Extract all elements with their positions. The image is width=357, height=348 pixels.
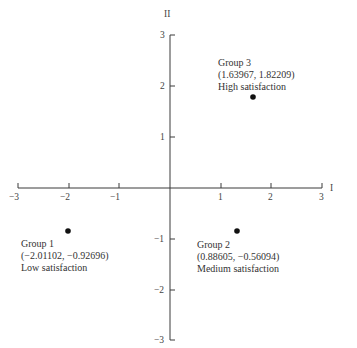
- point-group-3: [250, 94, 256, 100]
- group-description: Medium satisfaction: [197, 263, 279, 275]
- y-tick-label: −3: [154, 335, 164, 345]
- x-tick-label: 3: [319, 192, 324, 202]
- group-name: Group 1: [21, 238, 109, 250]
- group-description: High satisfaction: [218, 81, 295, 93]
- x-tick-label: 1: [218, 192, 223, 202]
- x-tick-label: −2: [60, 192, 70, 202]
- annotation-group-2: Group 2 (0.88605, −0.56094) Medium satis…: [197, 239, 279, 275]
- group-name: Group 2: [197, 239, 279, 251]
- x-tick-label: 2: [268, 192, 273, 202]
- annotation-group-1: Group 1 (−2.01102, −0.92696) Low satisfa…: [21, 238, 109, 274]
- y-tick-label: 1: [160, 132, 165, 142]
- point-group-2: [234, 228, 240, 234]
- y-axis-label: II: [164, 9, 170, 19]
- y-tick-label: 3: [160, 30, 165, 40]
- group-coords: (0.88605, −0.56094): [197, 251, 279, 263]
- group-coords: (1.63967, 1.82209): [218, 69, 295, 81]
- y-tick-label: −2: [154, 285, 164, 295]
- annotation-group-3: Group 3 (1.63967, 1.82209) High satisfac…: [218, 57, 295, 93]
- group-coords: (−2.01102, −0.92696): [21, 250, 109, 262]
- group-description: Low satisfaction: [21, 262, 109, 274]
- y-tick-label: 2: [160, 81, 165, 91]
- point-group-1: [65, 228, 71, 234]
- x-tick-label: −1: [110, 192, 120, 202]
- scatter-chart: [0, 0, 357, 348]
- y-tick-label: −1: [154, 234, 164, 244]
- x-tick-label: −3: [9, 192, 19, 202]
- x-axis-label: I: [330, 183, 333, 193]
- group-name: Group 3: [218, 57, 295, 69]
